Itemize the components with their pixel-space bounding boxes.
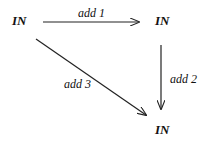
edge-add2: add 2	[161, 45, 197, 109]
commutative-diagram: add 1 add 2 add 3 IN IN IN	[0, 0, 206, 143]
node-top-right: IN	[154, 13, 170, 28]
edge-label-add1: add 1	[78, 6, 105, 20]
edge-label-add3: add 3	[64, 77, 91, 91]
node-bottom-right: IN	[154, 122, 170, 137]
edge-label-add2: add 2	[170, 72, 197, 86]
node-top-left: IN	[11, 13, 27, 28]
edge-add1: add 1	[43, 6, 139, 22]
arrow-add3	[36, 39, 146, 115]
edge-add3: add 3	[36, 39, 146, 115]
